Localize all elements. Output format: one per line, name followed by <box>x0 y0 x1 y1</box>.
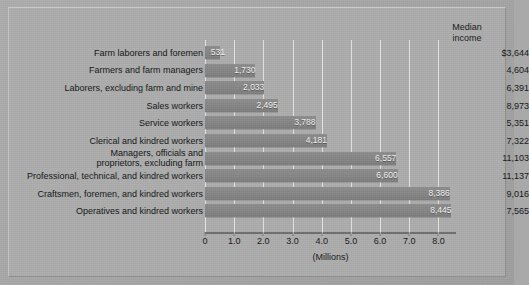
median-income-value: 9,016 <box>463 185 529 203</box>
median-income-value: 6,391 <box>463 79 529 97</box>
x-axis-ticks: 01.02.03.04.05.06.07.08.0 <box>205 236 456 250</box>
category-label: Craftsmen, foremen, and kindred workers <box>0 185 203 203</box>
chart-row: Managers, officials and proprietors, exc… <box>205 150 456 168</box>
bar-value-label: 6,600 <box>205 169 401 182</box>
category-label: Managers, officials and proprietors, exc… <box>0 150 203 168</box>
chart-row: Operatives and kindred workers8,4457,565 <box>205 202 456 220</box>
chart-row: Farm laborers and foremen531$3,644 <box>205 44 456 62</box>
median-income-header-line1: Median <box>432 22 502 33</box>
median-income-value: 5,351 <box>463 114 529 132</box>
category-label: Operatives and kindred workers <box>0 202 203 220</box>
chart-row: Laborers, excluding farm and mine2,0336,… <box>205 79 456 97</box>
bar-value-label: 6,557 <box>205 152 399 165</box>
category-label: Sales workers <box>0 97 203 115</box>
median-income-value: 8,973 <box>463 97 529 115</box>
chart-row: Service workers3,7885,351 <box>205 114 456 132</box>
x-tick-label: 0 <box>202 236 207 246</box>
median-income-value: $3,644 <box>463 44 529 62</box>
chart-row: Farmers and farm managers1,7304,604 <box>205 62 456 80</box>
x-tick-label: 8.0 <box>432 236 445 246</box>
chart-row: Professional, technical, and kindred wor… <box>205 167 456 185</box>
category-label: Farmers and farm managers <box>0 62 203 80</box>
bar-value-label: 531 <box>205 46 228 59</box>
bar-value-label: 2,495 <box>205 99 281 112</box>
median-income-value: 4,604 <box>463 62 529 80</box>
x-axis-label: (Millions) <box>205 252 456 262</box>
bar-value-label: 4,181 <box>205 134 330 147</box>
bar-value-label: 8,445 <box>205 204 454 217</box>
chart-row: Sales workers2,4958,973 <box>205 97 456 115</box>
x-tick-label: 2.0 <box>257 236 270 246</box>
bar-value-label: 3,788 <box>205 116 319 129</box>
median-income-value: 11,137 <box>463 167 529 185</box>
x-tick-label: 6.0 <box>374 236 387 246</box>
x-tick-label: 3.0 <box>286 236 299 246</box>
bar-value-label: 1,730 <box>205 64 258 77</box>
category-label: Clerical and kindred workers <box>0 132 203 150</box>
plot-area: Farm laborers and foremen531$3,644Farmer… <box>205 40 456 234</box>
chart-row: Craftsmen, foremen, and kindred workers8… <box>205 185 456 203</box>
chart-row: Clerical and kindred workers4,1817,322 <box>205 132 456 150</box>
category-label: Farm laborers and foremen <box>0 44 203 62</box>
x-tick-label: 1.0 <box>228 236 241 246</box>
bar-value-label: 2,033 <box>205 81 267 94</box>
x-tick-label: 7.0 <box>403 236 416 246</box>
category-label: Professional, technical, and kindred wor… <box>0 167 203 185</box>
category-label: Laborers, excluding farm and mine <box>0 79 203 97</box>
x-tick-label: 4.0 <box>315 236 328 246</box>
category-label: Service workers <box>0 114 203 132</box>
x-tick-label: 5.0 <box>345 236 358 246</box>
median-income-value: 7,565 <box>463 202 529 220</box>
median-income-value: 7,322 <box>463 132 529 150</box>
median-income-value: 11,103 <box>463 150 529 168</box>
bar-value-label: 8,386 <box>205 187 453 200</box>
x-axis-line <box>205 232 456 234</box>
